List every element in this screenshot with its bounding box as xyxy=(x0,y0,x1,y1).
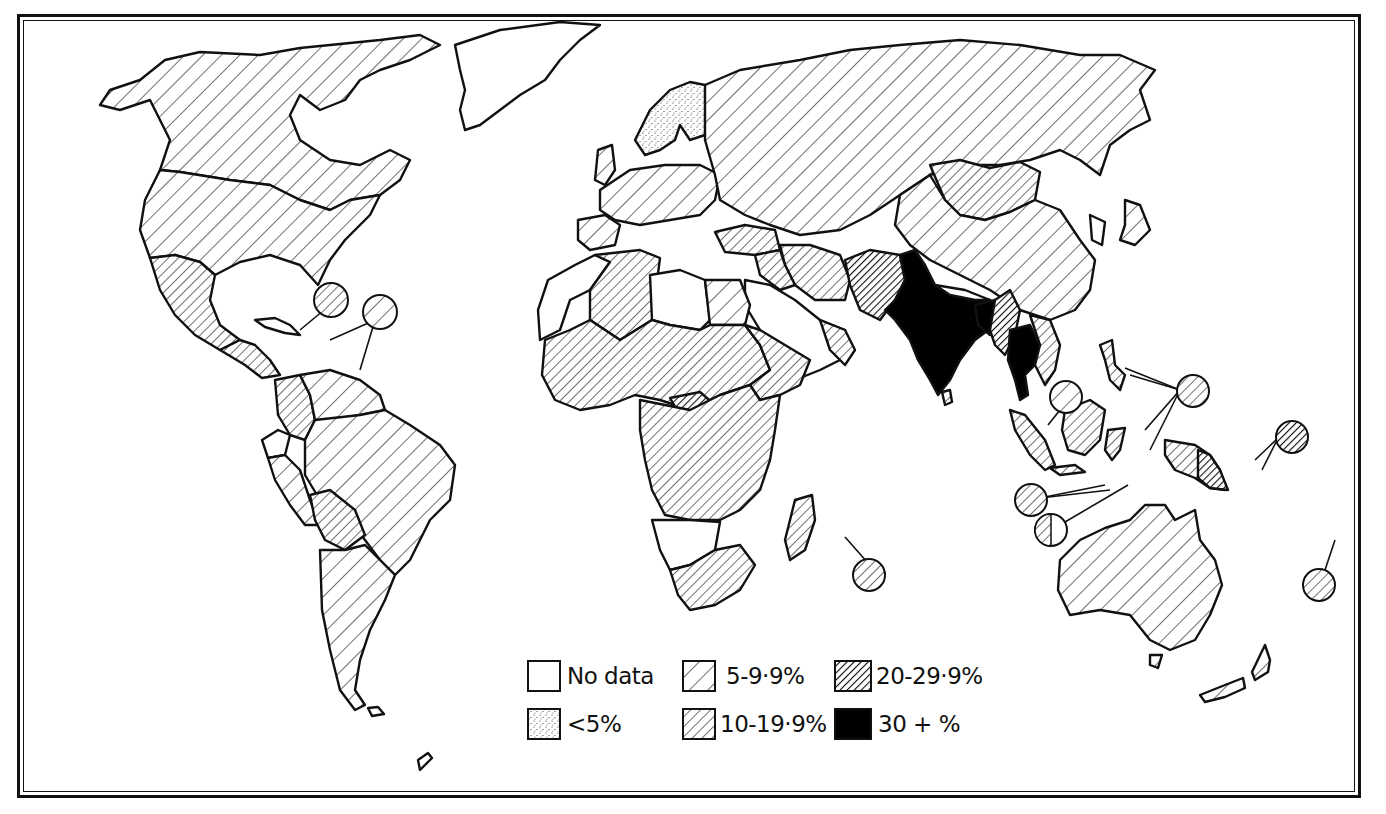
region-scandinavia xyxy=(635,82,710,155)
region-cuba xyxy=(255,318,300,335)
region-uk xyxy=(595,145,615,185)
legend-swatch-stipple xyxy=(527,708,561,740)
map-legend: No data <5% 5-9·9% 10-19·9% 20-29·9% 30 … xyxy=(527,658,997,748)
inset-lesser-sunda xyxy=(1015,484,1047,516)
inset-caribbean-2 xyxy=(363,295,397,329)
region-turkey xyxy=(715,225,780,255)
legend-item-no-data: No data xyxy=(527,658,654,694)
legend-swatch-blank xyxy=(527,660,561,692)
legend-label: 30 + % xyxy=(878,711,960,737)
inset-fiji xyxy=(1303,569,1335,601)
region-central-east-africa xyxy=(640,385,780,520)
region-south-georgia xyxy=(418,753,432,770)
region-korea xyxy=(1090,215,1105,245)
region-new-zealand-south xyxy=(1200,678,1245,702)
legend-item-5-9: 5-9·9% xyxy=(682,658,804,694)
region-sri-lanka xyxy=(942,390,952,405)
region-australia xyxy=(1058,505,1222,650)
legend-swatch-sparse-hatch xyxy=(682,660,716,692)
region-sulawesi xyxy=(1105,428,1125,460)
region-iran xyxy=(780,245,850,300)
inset-caribbean-1 xyxy=(314,283,348,317)
legend-label: 5-9·9% xyxy=(726,663,804,689)
legend-label: 10-19·9% xyxy=(720,711,827,737)
inset-mauritius xyxy=(853,559,885,591)
inset-solomons xyxy=(1276,421,1308,453)
legend-label: 20-29·9% xyxy=(876,663,983,689)
legend-item-30plus: 30 + % xyxy=(834,706,960,742)
legend-label: <5% xyxy=(567,711,621,737)
inset-philippines xyxy=(1177,375,1209,407)
region-sumatra xyxy=(1010,410,1055,470)
legend-item-20-29: 20-29·9% xyxy=(834,658,983,694)
region-new-zealand-north xyxy=(1252,645,1270,680)
region-western-europe xyxy=(600,165,720,225)
region-greenland xyxy=(455,22,600,130)
region-argentina-chile xyxy=(320,545,395,710)
legend-swatch-dense-hatch xyxy=(834,660,872,692)
region-canada xyxy=(100,35,440,210)
region-central-america xyxy=(220,340,280,378)
region-philippines xyxy=(1100,340,1125,390)
region-java xyxy=(1050,465,1085,475)
legend-swatch-solid xyxy=(834,708,872,740)
region-madagascar xyxy=(785,495,815,560)
legend-item-10-19: 10-19·9% xyxy=(682,706,827,742)
legend-swatch-medium-hatch xyxy=(682,708,716,740)
region-japan xyxy=(1120,200,1150,245)
region-falklands xyxy=(368,707,384,716)
legend-item-lt5: <5% xyxy=(527,706,621,742)
region-egypt xyxy=(705,280,750,325)
legend-label: No data xyxy=(567,663,654,689)
region-tasmania xyxy=(1150,655,1162,668)
region-ecuador xyxy=(262,430,290,458)
region-iberia xyxy=(578,215,620,250)
inset-malaysia xyxy=(1050,381,1082,413)
